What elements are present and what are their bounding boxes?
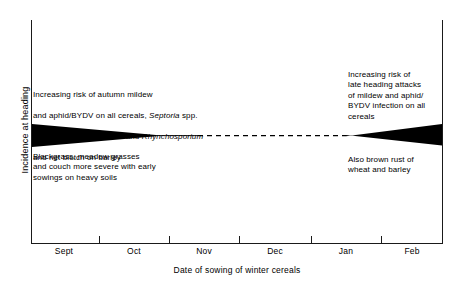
x-axis-tick-3 (239, 236, 240, 244)
annotation-top-left-line1: Increasing risk of autumn mildew (33, 90, 153, 99)
y-axis-title: Incidence at heading (20, 45, 30, 215)
annotation-bottom-left: Blackgrass, meadow grasses and couch mor… (33, 152, 263, 183)
annotation-top-left-line2a: and aphid/BYDV on all cereals, (33, 111, 149, 120)
right-risk-wedge (346, 124, 442, 146)
x-tick-label-oct: Oct (127, 246, 141, 256)
annotation-top-left-line2b: spp. (180, 111, 198, 120)
annotation-bottom-right: Also brown rust of wheat and barley (348, 155, 468, 176)
x-tick-label-dec: Dec (267, 246, 283, 256)
figure-container: Sept Oct Nov Dec Jan Feb Incidence at he… (0, 0, 471, 286)
annotation-top-left: Increasing risk of autumn mildew and aph… (33, 80, 283, 163)
species-name-septoria: Septoria (149, 111, 180, 120)
species-name-rhynchosporium: Rhynchosporium (142, 132, 203, 141)
x-tick-label-feb: Feb (404, 246, 419, 256)
x-axis-tick-4 (311, 236, 312, 244)
right-border-line (442, 20, 443, 244)
annotation-top-right: Increasing risk of late heading attacks … (348, 70, 468, 122)
x-tick-label-sept: Sept (55, 246, 73, 256)
x-tick-label-nov: Nov (196, 246, 212, 256)
x-axis-tick-5 (381, 236, 382, 244)
x-tick-label-jan: Jan (339, 246, 353, 256)
x-axis-tick-1 (99, 236, 100, 244)
x-axis-tick-2 (169, 236, 170, 244)
x-axis-title: Date of sowing of winter cereals (31, 265, 443, 275)
y-axis-line (31, 20, 32, 244)
annotation-top-left-line3a: and yellow rust on wheat and (33, 132, 142, 141)
